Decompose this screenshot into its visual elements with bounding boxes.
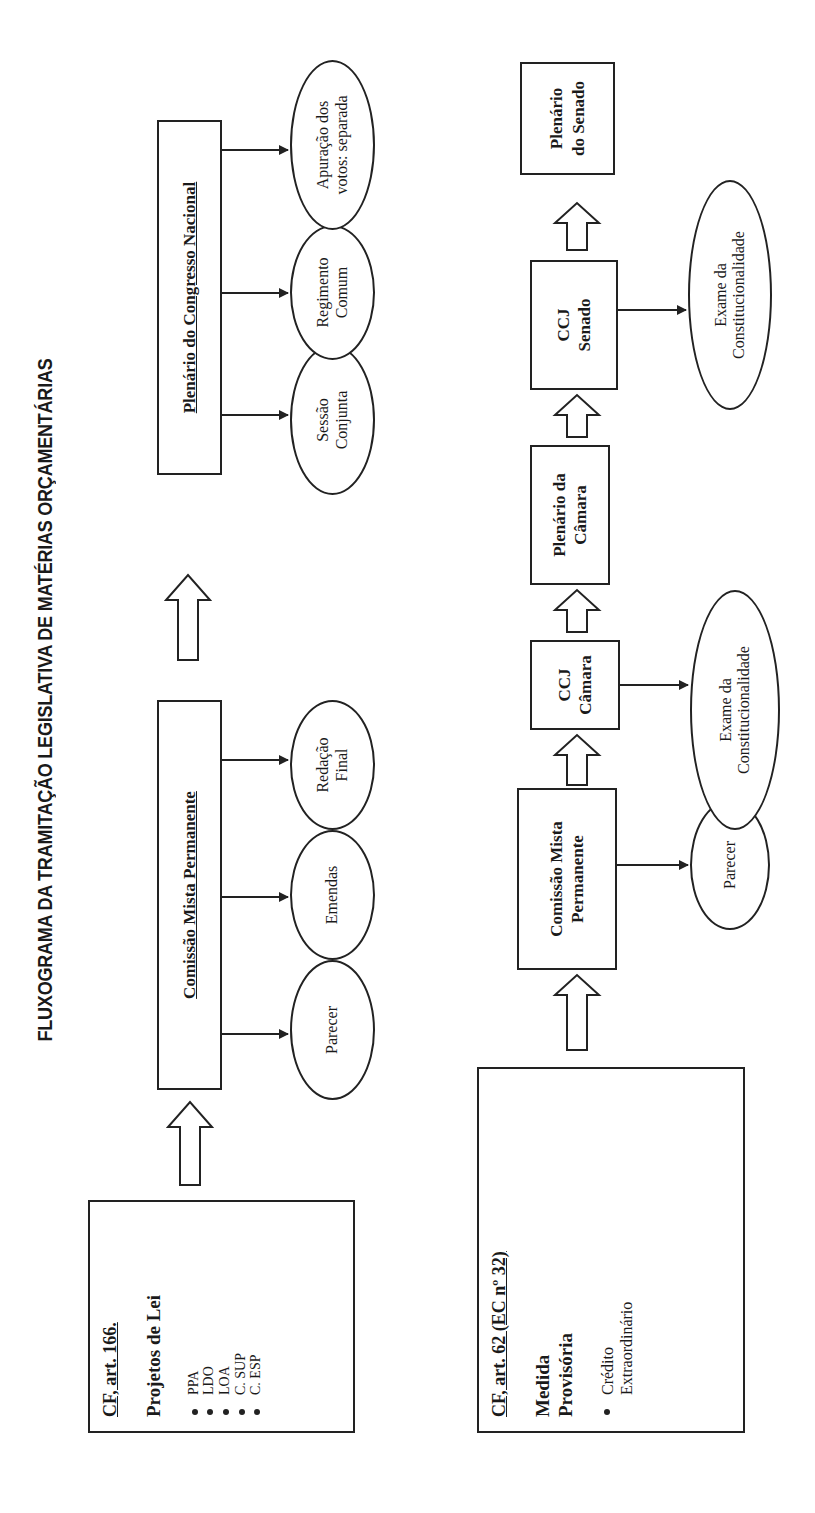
ellipse-emendas: Emendas [290, 830, 375, 960]
plenary-congress-box: Plenário do Congresso Nacional [157, 120, 222, 475]
hollow-arrow-right-icon [555, 395, 599, 437]
ellipse-regimento-comum: Regimento Comum [290, 225, 375, 360]
committee-label: Comissão Mista Permanente [179, 791, 200, 999]
plenario-senado-box: Plenário do Senado [520, 62, 615, 175]
list-item: LDO [201, 1216, 217, 1417]
ellipse-redacao-final: Redação Final [290, 700, 375, 830]
source-heading: CF, art. 166. [100, 1216, 121, 1417]
source-subtitle: Medida Provisória [532, 1317, 578, 1417]
ccj-camara-box: CCJ Câmara [530, 640, 620, 730]
hollow-arrow-right-icon [166, 575, 210, 660]
plenario-camara-box: Plenário da Câmara [530, 445, 610, 585]
list-item: C. ESP [248, 1216, 264, 1417]
list-item: C. SUP [233, 1216, 249, 1417]
source-subtitle: Projetos de Lei [143, 1216, 166, 1417]
flowchart-canvas: FLUXOGRAMA DA TRAMITAÇÃO LEGISLATIVA DE … [0, 0, 815, 1513]
bill-type-list: PPA LDO LOA C. SUP C. ESP [186, 1216, 264, 1417]
source-heading: CF, art. 62 (EC nº 32) [489, 1083, 510, 1417]
hollow-arrow-right-icon [555, 735, 599, 785]
ellipse-apuracao-votos: Apuração dos votos: separada [290, 60, 375, 230]
committee-box-bottom: Comissão Mista Permanente [517, 788, 617, 970]
hollow-arrow-right-icon [555, 203, 599, 250]
ellipse-exame-constitucionalidade-camara: Exame da Constitucionalidade [690, 590, 780, 830]
source-box-cf-62: CF, art. 62 (EC nº 32) Medida Provisória… [477, 1067, 745, 1433]
committee-box-top: Comissão Mista Permanente [157, 700, 222, 1090]
list-item: LOA [217, 1216, 233, 1417]
hollow-arrow-right-icon [555, 975, 599, 1050]
hollow-arrow-right-icon [168, 1102, 212, 1185]
ellipse-sessao-conjunta: Sessão Conjunta [290, 345, 375, 495]
ccj-senado-box: CCJ Senado [530, 260, 618, 390]
ellipse-exame-constitucionalidade-senado: Exame da Constitucionalidade [688, 180, 772, 410]
ellipse-parecer: Parecer [290, 960, 375, 1100]
list-item: Crédito Extraordinário [598, 1285, 636, 1417]
hollow-arrow-right-icon [555, 590, 599, 632]
credit-type-list: Crédito Extraordinário [598, 1083, 636, 1417]
source-box-cf-166: CF, art. 166. Projetos de Lei PPA LDO LO… [88, 1200, 355, 1433]
list-item: PPA [186, 1216, 202, 1417]
plenary-label: Plenário do Congresso Nacional [179, 182, 200, 414]
